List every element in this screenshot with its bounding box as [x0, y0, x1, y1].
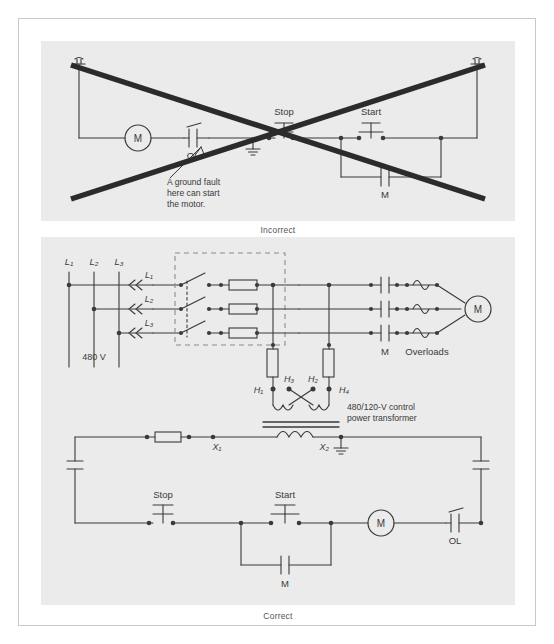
incorrect-motor-label: M — [134, 133, 142, 144]
transformer-h1-label: H₁ — [254, 385, 263, 395]
callout-line-2: here can start — [167, 188, 220, 198]
supply-line-1-label: L₁ — [65, 256, 73, 267]
seal-in-m-label: M — [281, 578, 289, 589]
transformer-desc-line-1: 480/120-V control — [347, 402, 415, 412]
feeder-line-2-label: L₂ — [145, 294, 154, 304]
transformer-h3-label: H₃ — [284, 374, 294, 384]
supply-line-2-label: L₂ — [90, 256, 99, 267]
control-stop-label: Stop — [153, 489, 173, 500]
supply-line-3-label: L₃ — [114, 256, 123, 267]
callout-line-3: the motor. — [167, 199, 205, 209]
figure-page: M OL Stop Start M A ground fault here ca… — [0, 0, 554, 644]
caption-incorrect: Incorrect — [41, 225, 515, 235]
transformer-x1-label: X₁ — [212, 442, 222, 452]
feeder-line-3-label: L₃ — [145, 318, 154, 328]
callout-line-1: A ground fault — [167, 177, 221, 187]
panel-incorrect: M OL Stop Start M A ground fault here ca… — [41, 41, 515, 221]
figure-frame: M OL Stop Start M A ground fault here ca… — [18, 18, 536, 626]
transformer-h2-label: H₂ — [308, 374, 318, 384]
panel-correct: L₁ L₂ L₃ L₁ L₂ L₃ 480 V — [41, 237, 515, 605]
incorrect-start-label: Start — [361, 106, 381, 117]
control-ol-label: OL — [449, 535, 462, 546]
transformer-h4-label: H₄ — [339, 385, 349, 395]
feeder-line-1-label: L₁ — [145, 270, 153, 280]
overloads-label: Overloads — [405, 346, 449, 357]
caption-correct: Correct — [41, 611, 515, 621]
disconnect-enclosure — [175, 253, 285, 345]
supply-voltage-label: 480 V — [82, 352, 106, 362]
incorrect-schematic: M OL Stop Start M A ground fault here ca… — [41, 41, 515, 221]
transformer-desc-line-2: power transformer — [347, 413, 417, 423]
transformer-x2-label: X₂ — [319, 442, 330, 452]
control-start-label: Start — [275, 489, 295, 500]
power-motor-label: M — [474, 304, 482, 315]
incorrect-seal-in-label: M — [381, 189, 389, 200]
correct-schematic: L₁ L₂ L₃ L₁ L₂ L₃ 480 V — [41, 237, 515, 605]
contactor-m-label: M — [381, 346, 389, 357]
starter-coil-label: M — [377, 518, 385, 529]
incorrect-stop-label: Stop — [274, 106, 294, 117]
cross-out-mark — [71, 65, 485, 199]
